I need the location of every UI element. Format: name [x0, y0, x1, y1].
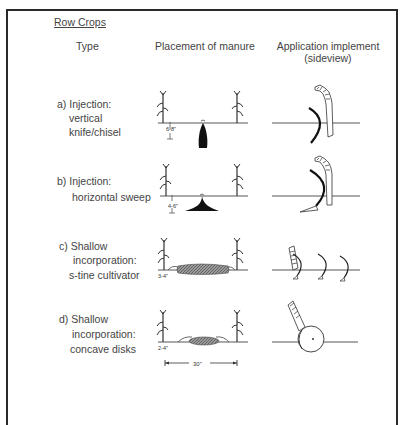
corn-plant-icon [157, 91, 168, 123]
corn-plant-icon [232, 238, 243, 270]
row-b-placement [160, 164, 248, 213]
row-a-placement [157, 91, 248, 148]
manure-band [199, 123, 208, 148]
s-tine-cultivator-implement-icon [272, 246, 360, 281]
corn-plant-icon [232, 310, 243, 342]
row-c-placement [158, 238, 248, 275]
horizontal-sweep-implement-icon [272, 156, 360, 212]
diagram-drawings [0, 0, 405, 425]
manure-band [185, 196, 219, 211]
knife-chisel-implement-icon [272, 85, 360, 143]
concave-disk-implement-icon [272, 301, 358, 352]
manure-band [177, 264, 229, 275]
corn-plant-icon [232, 91, 243, 123]
corn-plant-icon [160, 164, 171, 196]
manure-band [189, 337, 219, 345]
row-d-placement [157, 310, 248, 366]
corn-plant-icon [232, 164, 243, 196]
corn-plant-icon [158, 238, 169, 270]
corn-plant-icon [157, 310, 168, 342]
